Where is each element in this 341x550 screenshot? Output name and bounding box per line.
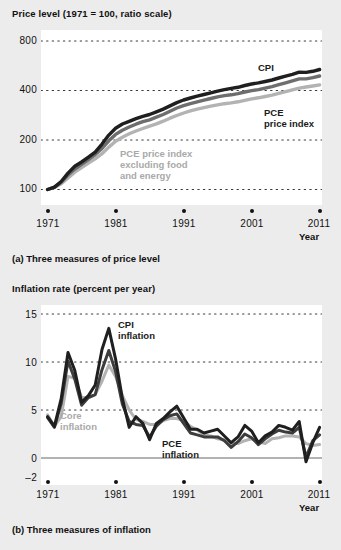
series-cpi-inflation [48, 328, 320, 461]
label-cpi-inflation-line2: inflation [118, 330, 155, 341]
panel-b-caption: (b) Three measures of inflation [12, 524, 151, 535]
panel-b-ytick-15: 15 [4, 309, 37, 320]
panel-a-ytick-800: 800 [4, 35, 37, 46]
label-core-line3: and energy [120, 170, 171, 181]
panel-b-ytick-0: 0 [4, 453, 37, 464]
series-core-inflation [48, 365, 320, 446]
panel-b-xtick-1991: 1991 [163, 489, 205, 500]
panel-a-xtick-2011: 2011 [298, 218, 340, 229]
label-core-line2: excluding food [120, 159, 188, 170]
panel-b-ytick-minus2: –2 [2, 472, 37, 483]
label-core-inflation-line1: Core [60, 410, 82, 421]
panel-b-xtick-2001: 2001 [231, 489, 273, 500]
panel-a-xtick-1991: 1991 [163, 218, 205, 229]
panel-a-xdot-1991 [182, 209, 186, 213]
label-cpi: CPI [258, 62, 274, 73]
panel-b-xdot-1991 [182, 480, 186, 484]
panel-a-xtick-1981: 1981 [95, 218, 137, 229]
panel-a-ytick-400: 400 [4, 84, 37, 95]
panel-b-year-axis-label: Year [299, 502, 319, 513]
label-pce-line1: PCE [264, 107, 284, 118]
panel-inflation-rate: Inflation rate (percent per year) 15 [0, 275, 341, 550]
panel-b-ytick-5: 5 [4, 405, 37, 416]
panel-b-xtick-1981: 1981 [95, 489, 137, 500]
panel-a-xdot-2011 [318, 209, 322, 213]
panel-a-ytick-200: 200 [4, 134, 37, 145]
label-cpi-inflation-line1: CPI [118, 319, 134, 330]
panel-b-xtick-1971: 1971 [27, 489, 69, 500]
panel-b-axis-title: Inflation rate (percent per year) [12, 283, 155, 294]
series-pce-inflation [48, 351, 320, 458]
label-pce-inflation-line2: inflation [162, 449, 199, 460]
panel-b-xdot-2001 [250, 480, 254, 484]
panel-price-level: Price level (1971 = 100, ratio scale) [0, 0, 341, 275]
panel-b-xtick-2011: 2011 [298, 489, 340, 500]
figure-page: Price level (1971 = 100, ratio scale) [0, 0, 341, 550]
panel-a-xdot-1971 [46, 209, 50, 213]
panel-b-xdot-2011 [318, 480, 322, 484]
panel-a-xtick-1971: 1971 [27, 218, 69, 229]
label-pce-line2: price index [264, 118, 314, 129]
label-core-inflation-line2: inflation [60, 421, 97, 432]
panel-a-xdot-1981 [114, 209, 118, 213]
label-pce-inflation-line1: PCE [162, 438, 182, 449]
label-core-line1: PCE price index [120, 148, 192, 159]
panel-b-xdot-1981 [114, 480, 118, 484]
panel-a-xtick-2001: 2001 [231, 218, 273, 229]
panel-b-ytick-10: 10 [4, 357, 37, 368]
panel-b-xdot-1971 [46, 480, 50, 484]
panel-a-caption: (a) Three measures of price level [12, 253, 160, 264]
series-cpi-price-index [48, 70, 320, 190]
panel-a-ytick-100: 100 [4, 183, 37, 194]
panel-a-axis-title: Price level (1971 = 100, ratio scale) [12, 8, 172, 19]
panel-a-xdot-2001 [250, 209, 254, 213]
panel-a-year-axis-label: Year [299, 231, 319, 242]
gridlines [41, 314, 322, 410]
